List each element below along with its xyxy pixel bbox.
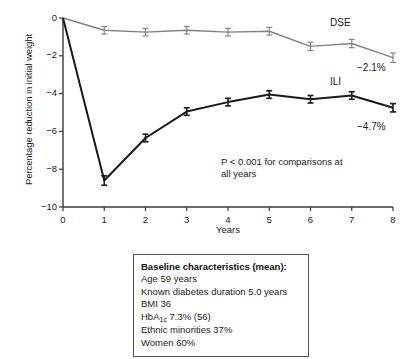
y-tick-label: −8 xyxy=(33,163,57,174)
baseline-characteristics-box: Baseline characteristics (mean): Age 59 … xyxy=(133,254,309,357)
x-axis-label: Years xyxy=(63,224,393,235)
x-tick-label: 1 xyxy=(94,214,114,225)
x-tick-label: 2 xyxy=(136,214,156,225)
x-tick-label: 4 xyxy=(218,214,238,225)
x-tick-label: 8 xyxy=(383,214,403,225)
x-tick-label: 3 xyxy=(177,214,197,225)
baseline-line-hba1c: HbA1c 7.3% (56) xyxy=(141,311,301,325)
baseline-line-ethnic-minorities: Ethnic minorities 37% xyxy=(141,324,301,337)
x-tick-label: 5 xyxy=(259,214,279,225)
x-tick-label: 6 xyxy=(301,214,321,225)
baseline-line-diabetes-duration: Known diabetes duration 5.0 years xyxy=(141,286,301,299)
y-tick-label: −4 xyxy=(33,87,57,98)
baseline-box-title: Baseline characteristics (mean): xyxy=(141,260,301,273)
baseline-line-women: Women 60% xyxy=(141,337,301,350)
y-axis-label: Percentage reduction in initial weight xyxy=(23,20,34,200)
annotation-pvalue-line2: all years xyxy=(221,168,256,181)
series-label-dse: DSE xyxy=(330,17,351,28)
y-tick-label: 0 xyxy=(33,12,57,23)
baseline-line-bmi: BMI 36 xyxy=(141,298,301,311)
end-label-dse: −2.1% xyxy=(357,62,386,73)
x-tick-label: 0 xyxy=(53,214,73,225)
end-label-ili: −4.7% xyxy=(357,121,386,132)
hba1c-value: 7.3% (56) xyxy=(167,311,211,322)
y-tick-label: −2 xyxy=(33,49,57,60)
x-tick-label: 7 xyxy=(342,214,362,225)
hba1c-prefix: HbA xyxy=(141,311,159,322)
plot-area: Percentage reduction in initial weight Y… xyxy=(0,0,418,245)
hba1c-subscript: 1c xyxy=(159,316,166,323)
y-tick-label: −10 xyxy=(33,201,57,212)
annotation-pvalue-line1: P < 0.001 for comparisons at xyxy=(221,156,343,169)
series-label-ili: ILI xyxy=(330,76,341,87)
chart-svg xyxy=(0,0,418,245)
figure-weight-loss-chart: Percentage reduction in initial weight Y… xyxy=(0,0,418,359)
y-tick-label: −6 xyxy=(33,125,57,136)
baseline-line-age: Age 59 years xyxy=(141,273,301,286)
